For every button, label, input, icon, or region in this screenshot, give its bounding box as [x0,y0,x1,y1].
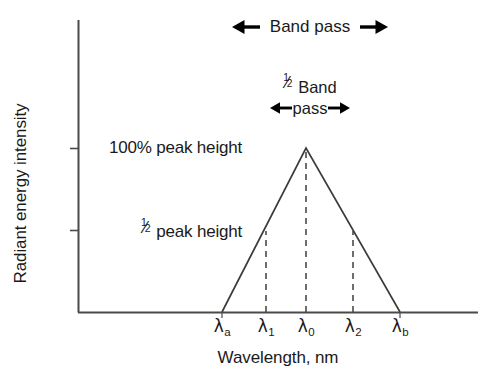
arrow-left-small-icon [269,100,293,116]
arrow-right-icon [359,18,389,36]
band-pass-annotation: Band pass [200,17,420,37]
half-band-pass-word-pass: pass [293,98,328,119]
y-tick-label-half-text: peak height [152,222,242,241]
arrow-right-small-icon [327,100,351,116]
x-tick-label-lambda-b: λb [378,316,422,336]
lambda-glyph-b: λ [392,316,402,336]
y-tick-label-100-text: 100% peak height [109,138,242,157]
lambda-subscript-2: 2 [355,326,361,338]
band-pass-label: Band pass [270,17,350,37]
x-tick-label-lambda-a: λa [200,316,244,336]
chart-figure: Radiant energy intensity 100% peak heigh… [0,0,486,387]
arrow-left-icon [231,18,261,36]
half-band-pass-line-1: 1⁄2 Band [240,76,380,98]
lambda-glyph-a: λ [214,316,224,336]
lambda-glyph-1: λ [258,316,268,336]
y-tick-label-half-peak: 1⁄2 peak height [0,220,242,242]
half-fraction-glyph: 1⁄2 [141,220,152,237]
half-band-pass-line-2: pass [240,98,380,119]
lambda-glyph-0: λ [298,316,308,336]
half-fraction-glyph-2: 1⁄2 [283,76,293,93]
bandpass-curve [222,148,400,312]
half-band-pass-annotation: 1⁄2 Band pass [240,76,380,119]
lambda-subscript-0: 0 [308,326,314,338]
x-tick-label-lambda-2: λ2 [331,316,375,336]
x-axis-title: Wavelength, nm [78,348,478,368]
fraction-denominator-2: 2 [287,79,293,89]
lambda-subscript-b: b [402,326,408,338]
lambda-subscript-a: a [224,326,230,338]
lambda-subscript-1: 1 [268,326,274,338]
x-tick-label-lambda-1: λ1 [244,316,288,336]
y-axis-title: Radiant energy intensity [4,0,38,387]
fraction-denominator: 2 [145,223,151,234]
y-tick-label-100-percent: 100% peak height [0,138,242,158]
x-tick-label-lambda-0: λ0 [284,316,328,336]
half-band-pass-word-band: Band [294,78,337,96]
lambda-glyph-2: λ [345,316,355,336]
